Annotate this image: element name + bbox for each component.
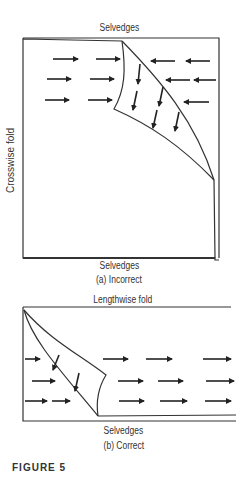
panel-a-side-label: Crosswise fold [5,128,16,193]
panel-b-bottom-label: Selvedges [104,425,144,436]
panel-a-bottom-label: Selvedges [100,260,140,271]
panel-b-top-label: Lengthwise fold [93,294,152,305]
panel-b-caption: (b) Correct [104,440,145,451]
figure-label: FIGURE 5 [12,462,66,473]
figure-drawing [0,0,249,482]
panel-a-top-label: Selvedges [100,22,140,33]
panel-a-caption: (a) Incorrect [96,274,142,285]
